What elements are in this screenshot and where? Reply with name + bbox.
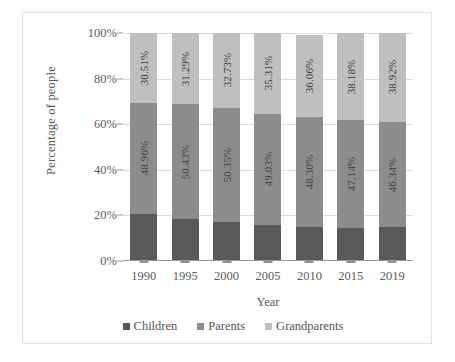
legend-item-children[interactable]: Children xyxy=(123,319,178,334)
y-axis-tick-label: 80% xyxy=(57,71,117,86)
bar-segment-children[interactable] xyxy=(296,227,323,261)
x-axis-tick-mark xyxy=(346,261,355,263)
x-axis-tick-mark xyxy=(222,261,231,263)
bar-column[interactable]: 30.51%48.96% xyxy=(130,33,157,261)
bar-segment-children[interactable] xyxy=(337,228,364,261)
bar-segment-parents[interactable]: 48.96% xyxy=(130,103,157,215)
bar-segment-grandparents[interactable]: 38.92% xyxy=(379,33,406,122)
bar-segment-label: 49.03% xyxy=(262,152,274,187)
bar-segment-label: 35.31% xyxy=(262,56,274,91)
legend-item-parents[interactable]: Parents xyxy=(197,319,245,334)
y-axis-tick-label: 20% xyxy=(57,208,117,223)
bar-segment-parents[interactable]: 47.14% xyxy=(337,120,364,227)
x-axis-tick-mark xyxy=(263,261,272,263)
x-axis-tick-slot xyxy=(213,261,240,269)
legend-item-label: Children xyxy=(134,319,178,334)
bar-segment-children[interactable] xyxy=(379,227,406,261)
bar-column[interactable]: 38.18%47.14% xyxy=(337,33,364,261)
x-axis-tick-mark xyxy=(181,261,190,263)
x-axis-tick-marks xyxy=(123,261,413,269)
bar-segment-label: 38.18% xyxy=(345,59,357,94)
bar-segment-children[interactable] xyxy=(254,225,281,261)
x-axis-tick-label: 2000 xyxy=(213,269,240,284)
bar-segment-grandparents[interactable]: 35.31% xyxy=(254,33,281,114)
legend-item-grandparents[interactable]: Grandparents xyxy=(265,319,343,334)
bar-segment-grandparents[interactable]: 38.18% xyxy=(337,33,364,120)
legend-swatch-icon xyxy=(265,323,272,330)
x-axis-tick-slot xyxy=(337,261,364,269)
bar-column[interactable]: 31.29%50.43% xyxy=(172,33,199,261)
bar-group: 30.51%48.96%31.29%50.43%32.73%50.35%35.3… xyxy=(123,33,413,261)
bar-segment-children[interactable] xyxy=(172,219,199,261)
bar-segment-grandparents[interactable]: 32.73% xyxy=(213,33,240,108)
y-axis-tick-label: 60% xyxy=(57,117,117,132)
chart-frame: Percentage of people 0%20%40%60%80%100% … xyxy=(22,12,432,344)
bar-segment-label: 50.35% xyxy=(221,148,233,183)
bar-segment-children[interactable] xyxy=(130,214,157,261)
bar-column[interactable]: 32.73%50.35% xyxy=(213,33,240,261)
y-axis-tick-label: 40% xyxy=(57,162,117,177)
bar-segment-parents[interactable]: 49.03% xyxy=(254,114,281,226)
x-axis-tick-slot xyxy=(130,261,157,269)
bar-segment-label: 48.30% xyxy=(303,155,315,190)
bar-segment-grandparents[interactable]: 31.29% xyxy=(172,33,199,104)
bar-segment-children[interactable] xyxy=(213,222,240,261)
bar-column[interactable]: 38.92%46.34% xyxy=(379,33,406,261)
x-axis-title: Year xyxy=(123,295,413,310)
x-axis-tick-label: 1995 xyxy=(172,269,199,284)
bar-segment-parents[interactable]: 50.43% xyxy=(172,104,199,219)
bar-segment-label: 47.14% xyxy=(345,157,357,192)
bar-segment-label: 31.29% xyxy=(179,51,191,86)
plot-area: 0%20%40%60%80%100% 30.51%48.96%31.29%50.… xyxy=(123,33,413,261)
x-axis-tick-labels: 1990199520002005201020152019 xyxy=(123,269,413,284)
bar-segment-label: 32.73% xyxy=(221,53,233,88)
x-axis-tick-label: 1990 xyxy=(130,269,157,284)
bar-segment-label: 48.96% xyxy=(138,141,150,176)
chart-legend: ChildrenParentsGrandparents xyxy=(63,319,403,334)
bar-segment-label: 50.43% xyxy=(179,145,191,180)
bar-segment-grandparents[interactable]: 36.06% xyxy=(296,35,323,117)
x-axis-tick-mark xyxy=(139,261,148,263)
chart-figure: Percentage of people 0%20%40%60%80%100% … xyxy=(0,0,455,362)
bar-segment-grandparents[interactable]: 30.51% xyxy=(130,33,157,103)
bar-column[interactable]: 36.06%48.30% xyxy=(296,33,323,261)
x-axis-tick-slot xyxy=(379,261,406,269)
legend-item-label: Grandparents xyxy=(276,319,343,334)
bar-segment-parents[interactable]: 50.35% xyxy=(213,108,240,223)
bar-segment-label: 38.92% xyxy=(386,60,398,95)
bar-segment-parents[interactable]: 48.30% xyxy=(296,117,323,227)
x-axis-tick-label: 2015 xyxy=(337,269,364,284)
x-axis-tick-label: 2010 xyxy=(296,269,323,284)
x-axis-tick-label: 2019 xyxy=(379,269,406,284)
y-axis-tick-label: 100% xyxy=(57,26,117,41)
bar-segment-label: 30.51% xyxy=(138,51,150,86)
x-axis-tick-mark xyxy=(305,261,314,263)
x-axis-tick-slot xyxy=(172,261,199,269)
y-axis-tick-label: 0% xyxy=(57,254,117,269)
bar-segment-parents[interactable]: 46.34% xyxy=(379,122,406,228)
bar-segment-label: 36.06% xyxy=(303,58,315,93)
x-axis-tick-slot xyxy=(254,261,281,269)
bar-segment-label: 46.34% xyxy=(386,157,398,192)
bar-column[interactable]: 35.31%49.03% xyxy=(254,33,281,261)
x-axis-tick-mark xyxy=(388,261,397,263)
legend-swatch-icon xyxy=(197,323,204,330)
legend-swatch-icon xyxy=(123,323,130,330)
x-axis-tick-slot xyxy=(296,261,323,269)
legend-item-label: Parents xyxy=(208,319,245,334)
x-axis-tick-label: 2005 xyxy=(254,269,281,284)
